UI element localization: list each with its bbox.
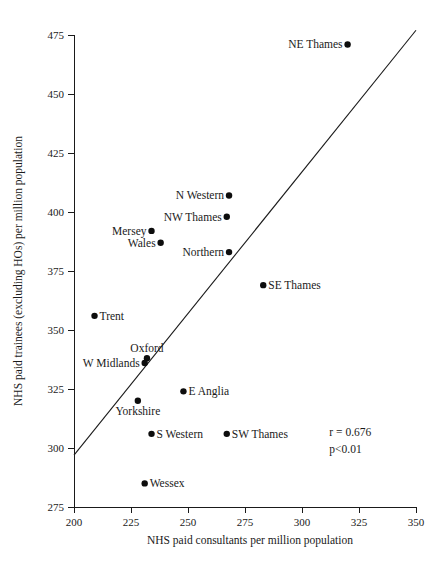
x-tick-label: 200 (66, 516, 83, 528)
y-axis-ticks: 275300325350375400425450475 (48, 29, 75, 513)
regression-line-path (74, 30, 416, 455)
data-point-label: Wessex (150, 477, 185, 489)
y-tick-label: 400 (48, 206, 65, 218)
data-point-label: Yorkshire (115, 405, 160, 417)
data-point-marker[interactable] (148, 228, 154, 234)
data-point[interactable]: E Anglia (180, 385, 229, 398)
data-point-marker[interactable] (226, 192, 232, 198)
plot-canvas: 275300325350375400425450475 200225250275… (0, 0, 443, 570)
data-point-label: NW Thames (164, 211, 223, 223)
data-point[interactable]: NW Thames (164, 211, 230, 223)
data-point-marker[interactable] (157, 239, 163, 245)
data-point[interactable]: SE Thames (260, 279, 321, 291)
y-tick-label: 325 (48, 383, 65, 395)
data-point[interactable]: Wales (128, 237, 164, 249)
data-point[interactable]: Wessex (141, 477, 184, 489)
x-tick-label: 325 (351, 516, 368, 528)
x-axis-ticks: 200225250275300325350 (66, 507, 425, 528)
data-point[interactable]: Northern (183, 246, 233, 258)
data-point-marker[interactable] (141, 360, 147, 366)
x-tick-label: 225 (123, 516, 140, 528)
data-point-marker[interactable] (141, 480, 147, 486)
statistics-annotations: r = 0.676p<0.01 (329, 426, 371, 456)
data-point-marker[interactable] (226, 249, 232, 255)
y-tick-label: 300 (48, 442, 65, 454)
data-point[interactable]: N Western (176, 189, 233, 201)
data-point-marker[interactable] (260, 282, 266, 288)
data-point[interactable]: SW Thames (224, 428, 289, 440)
data-point-marker[interactable] (224, 431, 230, 437)
data-point-marker[interactable] (344, 41, 350, 47)
x-tick-label: 250 (180, 516, 197, 528)
data-point[interactable]: Trent (91, 310, 125, 322)
data-point-label: Northern (183, 246, 225, 258)
y-axis-title: NHS paid trainees (excluding HOs) per mi… (12, 136, 25, 406)
data-point[interactable]: Yorkshire (115, 398, 160, 417)
data-point-marker[interactable] (135, 398, 141, 404)
data-point-label: N Western (176, 189, 225, 201)
scatter-plot-figure: 275300325350375400425450475 200225250275… (0, 0, 443, 570)
data-point-label: Wales (128, 237, 156, 249)
regression-line (74, 30, 416, 455)
data-point-label: S Western (157, 428, 204, 440)
y-tick-label: 375 (48, 265, 65, 277)
data-point[interactable]: NE Thames (288, 38, 351, 50)
data-point-label: W Midlands (83, 357, 140, 369)
correlation-annotation: r = 0.676 (329, 426, 371, 438)
data-point[interactable]: S Western (148, 428, 203, 440)
p-value-annotation: p<0.01 (329, 443, 362, 456)
y-tick-label: 275 (48, 501, 65, 513)
data-point[interactable]: W Midlands (83, 357, 148, 369)
data-point-label: E Anglia (188, 385, 229, 398)
data-point-marker[interactable] (180, 388, 186, 394)
y-tick-label: 350 (48, 324, 65, 336)
data-point-marker[interactable] (148, 431, 154, 437)
x-tick-label: 275 (237, 516, 254, 528)
y-tick-label: 450 (48, 88, 65, 100)
x-axis-title: NHS paid consultants per million populat… (147, 534, 353, 547)
x-tick-label: 300 (294, 516, 311, 528)
data-point-label: Trent (100, 310, 125, 322)
data-point-marker[interactable] (91, 313, 97, 319)
data-point-marker[interactable] (224, 214, 230, 220)
data-point-label: Oxford (130, 342, 163, 354)
data-point-label: NE Thames (288, 38, 343, 50)
y-tick-label: 475 (48, 29, 65, 41)
y-tick-label: 425 (48, 147, 65, 159)
data-point-label: SE Thames (268, 279, 321, 291)
data-points: NE ThamesN WesternNW ThamesMerseyWalesNo… (83, 38, 351, 489)
x-tick-label: 350 (408, 516, 425, 528)
data-point-label: SW Thames (232, 428, 289, 440)
